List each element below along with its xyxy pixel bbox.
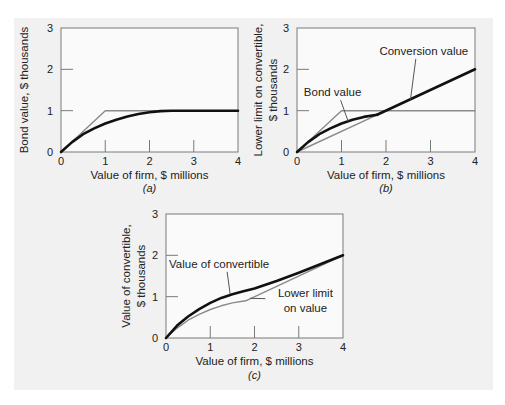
y-tick-label: 2 (283, 63, 289, 75)
plot-frame (61, 28, 238, 152)
annotation-label: Bond value (304, 86, 362, 98)
annotation-label-line2: on value (284, 302, 327, 314)
chart-b: 012301234Conversion valueBond valueValue… (252, 22, 478, 194)
panel-caption: (a) (143, 182, 157, 194)
x-tick-label: 3 (191, 155, 197, 167)
y-tick-label: 3 (152, 208, 158, 220)
x-tick-label: 4 (235, 155, 241, 167)
y-tick-label: 0 (283, 146, 289, 158)
panel-caption: (b) (379, 182, 393, 194)
y-axis-label: Value of convertible, (120, 224, 132, 327)
annotation-label: Conversion value (379, 45, 468, 57)
chart-c: 012301234Value of convertibleLower limit… (120, 208, 346, 381)
annotation-label: Lower limit (278, 287, 334, 299)
x-tick-label: 0 (163, 341, 169, 353)
y-tick-label: 2 (152, 249, 158, 261)
plot-frame (166, 214, 343, 338)
panel-caption: (c) (248, 369, 261, 381)
y-axis-label: $ thousands (267, 58, 279, 121)
x-tick-label: 3 (296, 341, 302, 353)
y-axis-label: $ thousands (135, 244, 147, 307)
y-tick-label: 1 (47, 105, 53, 117)
x-tick-label: 0 (294, 155, 300, 167)
x-tick-label: 2 (146, 155, 152, 167)
x-tick-label: 3 (427, 155, 433, 167)
y-axis-label: Lower limit on convertible, (252, 24, 264, 157)
x-axis-label: Value of firm, $ millions (327, 169, 445, 181)
y-tick-label: 2 (47, 63, 53, 75)
y-tick-label: 0 (47, 146, 53, 158)
y-tick-label: 3 (47, 22, 53, 34)
x-tick-label: 2 (383, 155, 389, 167)
x-axis-label: Value of firm, $ millions (90, 169, 208, 181)
y-axis-label: Bond value, $ thousands (18, 26, 30, 153)
x-tick-label: 1 (207, 341, 213, 353)
x-tick-label: 4 (472, 155, 478, 167)
y-tick-label: 0 (152, 332, 158, 344)
chart-a: 012301234Value of firm, $ millionsBond v… (18, 22, 241, 194)
x-tick-label: 1 (338, 155, 344, 167)
x-tick-label: 1 (102, 155, 108, 167)
x-axis-label: Value of firm, $ millions (195, 355, 313, 367)
y-tick-label: 1 (283, 105, 289, 117)
y-tick-label: 1 (152, 291, 158, 303)
y-tick-label: 3 (283, 22, 289, 34)
x-tick-label: 0 (58, 155, 64, 167)
x-tick-label: 2 (251, 341, 257, 353)
x-tick-label: 4 (340, 341, 346, 353)
annotation-label: Value of convertible (169, 258, 269, 270)
figure-canvas: 012301234Value of firm, $ millionsBond v… (0, 0, 505, 405)
